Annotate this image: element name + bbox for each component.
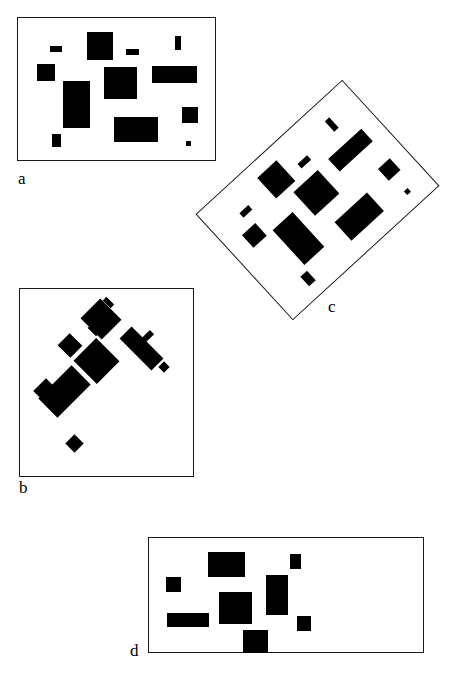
panel-b-rect-9: [158, 361, 169, 372]
panel-b-rect-layer: [19, 288, 194, 477]
panel-b-rect-11: [65, 434, 83, 452]
panel-c-rect-6: [293, 170, 339, 216]
panel-a-rect-10: [114, 117, 158, 142]
panel-d-rect-2: [290, 554, 301, 569]
panel-label-c: c: [328, 298, 336, 315]
panel-a-rect-3: [126, 49, 139, 55]
panel-a-rect-layer: [17, 17, 216, 161]
panel-c-rect-10: [335, 193, 384, 241]
panel-d-rect-6: [167, 613, 209, 627]
panel-label-d: d: [130, 642, 139, 659]
panel-d-rect-4: [266, 575, 288, 615]
panel-a-rect-1: [50, 46, 62, 52]
panel-a-rect-6: [104, 67, 137, 99]
panel-a: [17, 17, 216, 161]
panel-d-rect-7: [297, 616, 311, 631]
panel-c-rect-12: [404, 188, 411, 195]
panel-d-rect-layer: [148, 537, 424, 653]
panel-a-rect-4: [175, 36, 181, 50]
panel-a-rect-5: [37, 64, 55, 81]
panel-a-rect-7: [152, 66, 197, 83]
panel-label-a: a: [18, 170, 26, 187]
figure-root: a b c d: [0, 0, 449, 682]
panel-a-rect-8: [63, 81, 90, 128]
panel-c-rect-1: [239, 205, 252, 218]
panel-c-rect-5: [242, 223, 267, 248]
panel-c-rect-7: [328, 129, 373, 172]
panel-d-rect-1: [208, 552, 245, 577]
panel-d: [148, 537, 424, 653]
panel-a-rect-2: [87, 32, 113, 60]
panel-c-rect-layer: [195, 80, 439, 321]
panel-c-rect-4: [325, 117, 339, 131]
panel-a-rect-9: [182, 107, 198, 123]
panel-a-rect-11: [52, 134, 61, 147]
panel-label-b: b: [19, 479, 28, 496]
panel-c-rect-3: [297, 155, 311, 168]
panel-b: [19, 288, 194, 477]
panel-a-rect-12: [186, 141, 191, 146]
panel-d-rect-5: [219, 592, 252, 624]
panel-d-rect-3: [166, 577, 181, 592]
panel-c-rect-11: [300, 271, 315, 287]
panel-b-rect-2: [80, 298, 121, 339]
panel-c-rect-2: [257, 160, 295, 198]
panel-c: [195, 80, 439, 321]
panel-d-rect-8: [243, 630, 268, 653]
panel-c-rect-8: [273, 212, 325, 265]
panel-c-rect-9: [378, 158, 401, 181]
panel-b-rect-7: [120, 327, 164, 371]
